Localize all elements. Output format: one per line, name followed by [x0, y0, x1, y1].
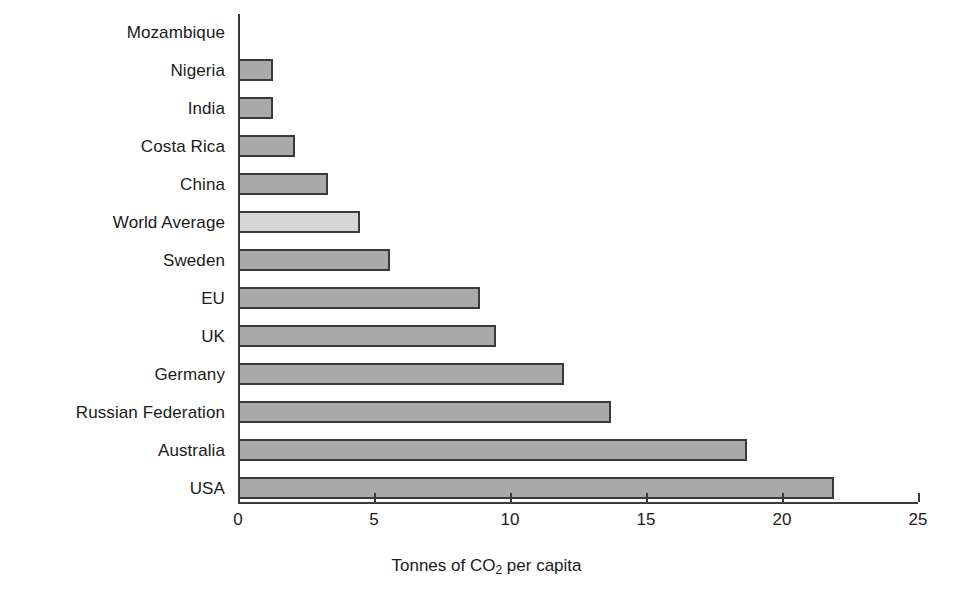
- bar-row: [238, 52, 918, 90]
- bar-china: [238, 173, 328, 195]
- bar-row: [238, 356, 918, 394]
- category-label-uk: UK: [0, 318, 225, 356]
- x-tick-5: [374, 493, 376, 502]
- x-tick-label-0: 0: [233, 510, 242, 530]
- x-tick-20: [782, 493, 784, 502]
- category-label-germany: Germany: [0, 356, 225, 394]
- category-label-usa: USA: [0, 470, 225, 508]
- bar-india: [238, 97, 273, 119]
- bar-row: [238, 204, 918, 242]
- x-tick-label-10: 10: [501, 510, 520, 530]
- bar-row: [238, 318, 918, 356]
- bar-row: [238, 128, 918, 166]
- bar-nigeria: [238, 59, 273, 81]
- bar-row: [238, 394, 918, 432]
- bar-uk: [238, 325, 496, 347]
- bar-row: [238, 242, 918, 280]
- category-label-sweden: Sweden: [0, 242, 225, 280]
- bar-row: [238, 14, 918, 52]
- x-axis-line: [238, 502, 918, 504]
- category-label-india: India: [0, 90, 225, 128]
- bar-germany: [238, 363, 564, 385]
- x-tick-label-15: 15: [637, 510, 656, 530]
- category-label-world-average: World Average: [0, 204, 225, 242]
- bar-row: [238, 90, 918, 128]
- x-axis-title-subscript: 2: [495, 563, 502, 577]
- bar-world-average: [238, 211, 360, 233]
- x-tick-15: [646, 493, 648, 502]
- x-tick-label-5: 5: [369, 510, 378, 530]
- bar-russian-federation: [238, 401, 611, 423]
- bar-costa-rica: [238, 135, 295, 157]
- x-axis-title-before: Tonnes of CO: [391, 556, 495, 575]
- x-tick-10: [510, 493, 512, 502]
- x-tick-label-20: 20: [773, 510, 792, 530]
- bar-eu: [238, 287, 480, 309]
- x-tick-0: [238, 493, 240, 502]
- bar-australia: [238, 439, 747, 461]
- category-label-russian-federation: Russian Federation: [0, 394, 225, 432]
- x-tick-label-25: 25: [909, 510, 928, 530]
- category-label-mozambique: Mozambique: [0, 14, 225, 52]
- bar-chart: MozambiqueNigeriaIndiaCosta RicaChinaWor…: [0, 0, 973, 607]
- x-axis-title: Tonnes of CO2 per capita: [0, 556, 973, 576]
- bar-row: [238, 432, 918, 470]
- category-axis-labels: MozambiqueNigeriaIndiaCosta RicaChinaWor…: [0, 14, 225, 503]
- bar-sweden: [238, 249, 390, 271]
- bar-row: [238, 280, 918, 318]
- category-label-australia: Australia: [0, 432, 225, 470]
- x-tick-25: [918, 493, 920, 502]
- category-label-china: China: [0, 166, 225, 204]
- bar-row: [238, 166, 918, 204]
- category-label-eu: EU: [0, 280, 225, 318]
- bar-usa: [238, 477, 834, 499]
- category-label-costa-rica: Costa Rica: [0, 128, 225, 166]
- bar-rows: [238, 14, 918, 503]
- plot-area: [238, 14, 918, 503]
- x-axis-title-after: per capita: [502, 556, 581, 575]
- category-label-nigeria: Nigeria: [0, 52, 225, 90]
